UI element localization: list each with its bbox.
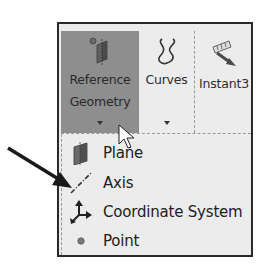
command-manager-toolbar: Reference Geometry Curves Instant3 bbox=[61, 31, 251, 133]
reference-geometry-dropdown-panel: Reference Geometry Curves Instant3 bbox=[57, 22, 253, 257]
coordinate-system-icon bbox=[69, 200, 93, 224]
instant3d-button[interactable]: Instant3 bbox=[195, 31, 253, 133]
instant3d-icon bbox=[209, 39, 239, 69]
menu-item-point[interactable]: Point bbox=[62, 226, 250, 256]
menu-item-plane[interactable]: Plane bbox=[62, 138, 250, 168]
chevron-down-icon[interactable] bbox=[164, 121, 170, 125]
instant3d-label: Instant3 bbox=[199, 73, 249, 95]
menu-item-label: Point bbox=[103, 232, 139, 250]
curves-button[interactable]: Curves bbox=[139, 31, 195, 133]
reference-geometry-label-2: Geometry bbox=[70, 91, 131, 113]
callout-arrow-icon bbox=[0, 140, 75, 195]
menu-item-axis[interactable]: Axis bbox=[62, 168, 250, 198]
chevron-down-icon[interactable] bbox=[97, 121, 103, 125]
reference-geometry-menu: Plane Axis Coordinate System Point bbox=[61, 134, 251, 255]
mouse-cursor-icon bbox=[118, 124, 138, 150]
reference-geometry-button[interactable]: Reference Geometry bbox=[61, 31, 139, 133]
menu-item-label: Axis bbox=[103, 174, 133, 192]
reference-geometry-icon bbox=[85, 35, 115, 67]
menu-item-coordinate-system[interactable]: Coordinate System bbox=[62, 197, 250, 227]
point-icon bbox=[69, 229, 93, 253]
curves-icon bbox=[153, 35, 181, 67]
menu-item-label: Coordinate System bbox=[103, 203, 243, 221]
curves-label: Curves bbox=[145, 69, 187, 91]
reference-geometry-label-1: Reference bbox=[69, 69, 130, 91]
